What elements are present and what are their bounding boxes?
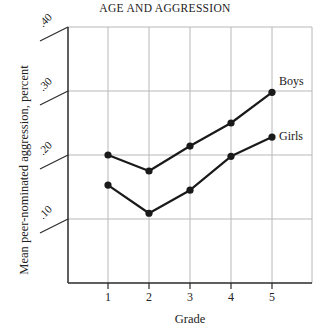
data-point [227, 119, 234, 126]
x-tick-label: 4 [228, 290, 234, 305]
x-tick-label: 5 [269, 290, 275, 305]
x-tick-label: 1 [105, 290, 111, 305]
x-axis-label: Grade [175, 312, 206, 327]
series-label-girls: Girls [279, 129, 303, 144]
data-point [268, 133, 275, 140]
data-point [145, 210, 152, 217]
y-axis-label: Mean peer-nominated aggression, percent [17, 65, 32, 274]
x-tick-label: 2 [146, 290, 152, 305]
data-point [227, 153, 234, 160]
x-tick-label: 3 [187, 290, 193, 305]
data-point [104, 151, 111, 158]
data-point [186, 187, 193, 194]
data-point [104, 181, 111, 188]
data-point [186, 142, 193, 149]
axes [40, 27, 312, 289]
data-point [145, 167, 152, 174]
data-point [268, 89, 275, 96]
series-label-boys: Boys [279, 74, 304, 89]
line-chart [0, 0, 330, 336]
